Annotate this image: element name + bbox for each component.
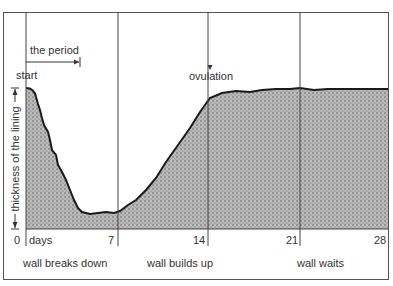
- x-tick-28: 28: [374, 234, 386, 246]
- phase-builds-up: wall builds up: [147, 257, 213, 269]
- ovulation-label: ovulation: [189, 70, 233, 82]
- arrow-up-icon: [13, 89, 18, 95]
- arrow-down-icon: [13, 222, 18, 228]
- x-tick-0: 0: [14, 234, 20, 246]
- x-unit-label: days: [29, 234, 52, 246]
- x-tick-21: 21: [286, 234, 298, 246]
- x-tick-14: 14: [193, 234, 205, 246]
- phase-waits: wall waits: [297, 257, 344, 269]
- lining-area: [26, 88, 388, 229]
- period-arrowhead-icon: [74, 60, 79, 65]
- phase-breaks-down: wall breaks down: [23, 257, 107, 269]
- start-label: start: [16, 69, 37, 81]
- y-axis-label: thickness of the lining: [9, 103, 21, 215]
- period-label: the period: [30, 44, 79, 56]
- x-tick-7: 7: [108, 234, 114, 246]
